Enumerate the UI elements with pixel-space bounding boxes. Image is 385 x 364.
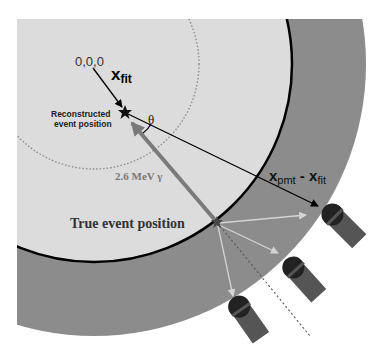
minus-sign: - [296,167,309,184]
pmt-2 [278,252,327,303]
gamma-energy-label: 2.6 MeV γ [115,170,162,182]
x-fit-sub: fit [120,72,131,86]
theta-label: θ [148,112,154,127]
reconstructed-label-line2: event position [54,119,112,129]
true-event-label: True event position [70,216,185,231]
pmt-3 [224,291,270,344]
origin-label: 0,0,0 [75,54,104,69]
reconstructed-label-line1: Reconstructed [51,109,111,119]
x-fit-sub-2: fit [317,174,326,186]
event-reconstruction-diagram: 0,0,0 xfit Reconstructed event position … [0,0,385,364]
x-pmt-sub: pmt [277,174,295,186]
